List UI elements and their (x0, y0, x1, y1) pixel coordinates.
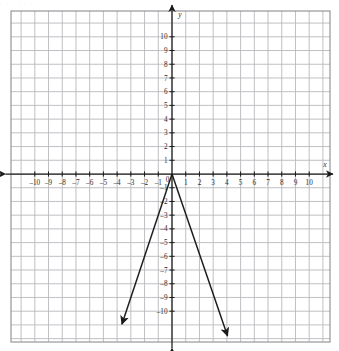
x-axis-label: x (322, 160, 327, 169)
x-tick-label: –7 (71, 179, 80, 187)
x-tick-label: 5 (239, 179, 243, 187)
y-axis-label: y (177, 10, 182, 19)
x-tick-label: 1 (184, 179, 188, 187)
x-tick-label: 3 (211, 179, 215, 187)
x-tick-label: –10 (28, 179, 40, 187)
x-tick-label: 10 (306, 179, 314, 187)
graph-canvas: –10–9–8–7–6–5–4–3–2–11234567891010987654… (0, 0, 339, 351)
x-tick-label: –3 (126, 179, 135, 187)
x-tick-label: –9 (44, 179, 53, 187)
cropped-header-artifact: · · · · · · (0, 0, 339, 9)
x-tick-label: –6 (85, 179, 94, 187)
y-tick-label: 8 (164, 61, 168, 69)
y-tick-label: 2 (164, 143, 168, 151)
coordinate-plane-figure: · · · · · · –10–9–8–7–6–5–4–3–2–11234567… (0, 0, 339, 351)
y-tick-label: 1 (164, 157, 168, 165)
y-tick-label: 4 (164, 116, 168, 124)
x-tick-label: –5 (99, 179, 108, 187)
y-tick-label: –5 (159, 239, 168, 247)
x-tick-label: 9 (294, 179, 298, 187)
x-tick-label: –4 (113, 179, 122, 187)
x-tick-label: 4 (225, 179, 229, 187)
y-tick-label: 9 (164, 47, 168, 55)
y-tick-label: 7 (164, 75, 168, 83)
y-tick-label: –8 (159, 280, 168, 288)
x-tick-label: –2 (140, 179, 149, 187)
x-tick-label: –8 (58, 179, 67, 187)
y-tick-label: 10 (160, 33, 168, 41)
x-tick-label: 8 (280, 179, 284, 187)
y-tick-label: 6 (164, 88, 168, 96)
x-tick-label: 6 (253, 179, 257, 187)
y-tick-label: 5 (164, 102, 168, 110)
y-tick-label: –6 (159, 253, 168, 261)
y-tick-label: –4 (159, 225, 168, 233)
x-tick-label: 2 (198, 179, 202, 187)
x-tick-label: 7 (266, 179, 270, 187)
y-tick-label: –10 (156, 308, 168, 316)
y-tick-label: 3 (164, 129, 168, 137)
y-tick-label: –7 (159, 267, 168, 275)
y-tick-label: –3 (159, 212, 168, 220)
y-tick-label: –9 (159, 294, 168, 302)
